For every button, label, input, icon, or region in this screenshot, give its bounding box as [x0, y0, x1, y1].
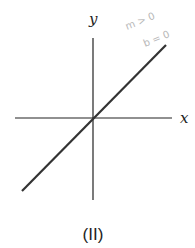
x-axis-label: x [180, 109, 189, 127]
graph-diagram: y x m > 0 b = 0 (II) [0, 0, 195, 248]
annotation-slope: m > 0 [124, 10, 157, 32]
figure-caption: (II) [83, 225, 104, 244]
y-axis-label: y [88, 10, 98, 28]
